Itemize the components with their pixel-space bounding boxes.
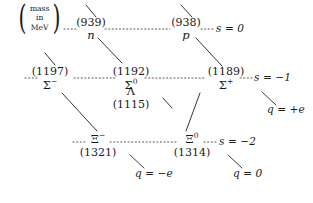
- sigma-plus-symbol-base: Σ: [219, 78, 227, 92]
- sigma-minus-symbol-sup: −: [51, 77, 57, 86]
- sigma-minus-symbol: Σ−: [32, 77, 69, 92]
- neutron-symbol: n: [76, 28, 106, 42]
- lambda-symbol: Λ: [113, 84, 150, 98]
- node-sigma-minus: (1197) Σ−: [32, 65, 69, 92]
- strangeness-label-s-minus-2: s = −2: [219, 136, 256, 147]
- xi-minus-symbol-base: Ξ: [91, 132, 99, 146]
- xi-zero-symbol-base: Ξ: [186, 132, 194, 146]
- sigma-plus-symbol-sup: +: [227, 77, 233, 86]
- mass-units-legend: ( mass in MeV ): [16, 3, 63, 33]
- legend-paren-left: (: [18, 3, 26, 33]
- legend-line-3: MeV: [31, 23, 49, 32]
- charge-label-plus-e-text: q = +e: [267, 103, 305, 115]
- node-lambda: Λ (1115): [113, 84, 150, 111]
- lambda-mass: (1115): [113, 98, 150, 111]
- charge-label-zero-text: q = 0: [233, 167, 262, 179]
- edge-lambda-leader: [163, 98, 172, 108]
- node-sigma-plus: (1189) Σ+: [208, 65, 245, 92]
- strangeness-label-s-minus-2-text: s = −2: [219, 135, 256, 147]
- node-xi-zero: Ξ0 (1314): [174, 131, 211, 159]
- node-xi-minus: Ξ− (1321): [80, 131, 117, 159]
- charge-label-zero: q = 0: [233, 168, 262, 179]
- xi-zero-symbol: Ξ0: [174, 131, 211, 146]
- strangeness-label-s-minus-1: s = −1: [254, 72, 291, 83]
- legend-line-2: in: [36, 13, 43, 22]
- strangeness-label-s0-text: s = 0: [216, 22, 244, 34]
- edge-p-to-sigmaplus: [196, 38, 222, 66]
- xi-zero-symbol-sup: 0: [194, 131, 199, 140]
- xi-minus-symbol: Ξ−: [80, 131, 117, 146]
- xi-zero-mass: (1314): [174, 146, 211, 159]
- charge-label-minus-e-text: q = −e: [135, 167, 173, 179]
- legend-stack: mass in MeV: [29, 4, 51, 33]
- legend-line-1: mass: [30, 4, 50, 13]
- xi-minus-symbol-sup: −: [99, 131, 105, 140]
- strangeness-label-s-minus-1-text: s = −1: [254, 71, 291, 83]
- node-neutron: (939) n: [76, 16, 106, 42]
- xi-minus-mass: (1321): [80, 146, 117, 159]
- sigma-plus-symbol: Σ+: [208, 77, 245, 92]
- proton-symbol: p: [171, 28, 201, 42]
- charge-label-plus-e: q = +e: [267, 104, 305, 115]
- charge-label-minus-e: q = −e: [135, 168, 173, 179]
- node-proton: (938) p: [171, 16, 201, 42]
- baryon-octet-figure: ( mass in MeV ) (939) n (938) p s = 0 (1…: [0, 0, 313, 203]
- strangeness-label-s0: s = 0: [216, 23, 244, 34]
- legend-paren-right: ): [53, 3, 61, 33]
- edge-sigmaminus-to-ximinus: [62, 93, 97, 131]
- sigma-minus-symbol-base: Σ: [43, 78, 51, 92]
- edge-sigmaminus-up: [45, 53, 55, 65]
- edge-sigmaplus-to-xizero: [186, 93, 200, 131]
